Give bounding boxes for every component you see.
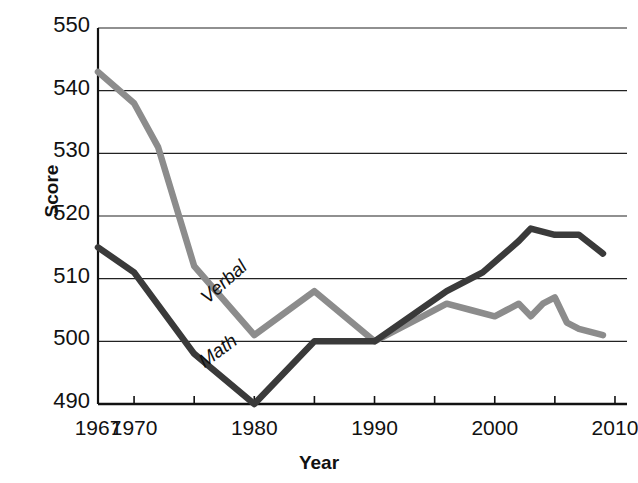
y-tick-label: 510 [30,265,90,287]
plot-canvas [0,0,638,483]
y-tick-label: 500 [30,327,90,349]
sat-score-line-chart: Score Year 550540530520510500490 1967197… [0,0,638,483]
x-tick-label: 2000 [471,416,518,440]
y-tick-label: 520 [30,202,90,224]
y-tick-label: 540 [30,77,90,99]
series-line-verbal [98,72,603,341]
x-tick-label: 1980 [231,416,278,440]
series-paths [98,72,603,404]
x-tick-label: 2010 [592,416,638,440]
y-tick-label: 530 [30,139,90,161]
y-tick-label: 490 [30,390,90,412]
y-tick-label: 550 [30,14,90,36]
x-axis-title: Year [0,452,638,474]
x-tick-label: 1990 [351,416,398,440]
x-tick-label: 1970 [111,416,158,440]
